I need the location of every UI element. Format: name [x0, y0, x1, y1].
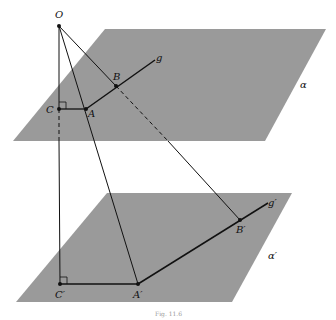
- label-g-prime: g′: [268, 197, 277, 208]
- point-O: [57, 24, 61, 28]
- point-B-prime: [238, 218, 242, 222]
- point-C: [57, 107, 61, 111]
- label-g: g: [156, 52, 162, 63]
- label-A: A: [87, 108, 95, 119]
- figure-caption: Fig. 11.6: [155, 310, 182, 318]
- label-B-prime: B′: [235, 224, 246, 235]
- label-C: C: [46, 104, 54, 115]
- label-C-prime: C′: [55, 289, 66, 300]
- plane-alpha: [13, 29, 326, 141]
- geometry-diagram: O C A B g α C′ A′ B′ g′ α′ Fig. 11.6: [0, 0, 336, 320]
- plane-alpha-prime: [16, 193, 292, 302]
- label-A-prime: A′: [132, 289, 143, 300]
- label-B: B: [112, 71, 120, 82]
- point-C-prime: [58, 282, 62, 286]
- label-alpha: α: [300, 79, 307, 90]
- point-A-prime: [136, 282, 140, 286]
- label-alpha-prime: α′: [268, 250, 278, 261]
- label-O: O: [55, 9, 63, 20]
- point-B: [114, 84, 118, 88]
